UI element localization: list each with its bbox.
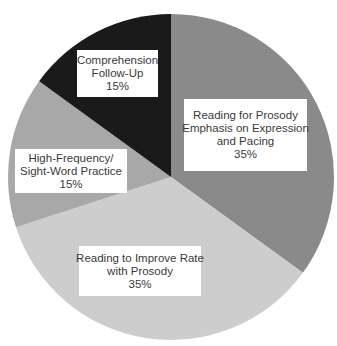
label-percent: 15%	[106, 80, 129, 93]
label-high-frequency: High-Frequency/ Sight-Word Practice 15%	[15, 149, 127, 193]
label-comprehension: Comprehension Follow-Up 15%	[77, 50, 158, 97]
label-line: High-Frequency/	[28, 152, 113, 165]
label-percent: 35%	[234, 148, 257, 161]
label-line: Reading for Prosody	[193, 109, 298, 122]
label-reading-for-prosody: Reading for Prosody Emphasis on Expressi…	[184, 99, 307, 171]
label-line: Sight-Word Practice	[20, 165, 122, 178]
label-line: and Pacing	[217, 135, 275, 148]
label-line: Emphasis on Expression	[182, 122, 309, 135]
label-percent: 15%	[59, 178, 82, 191]
label-line: with Prosody	[107, 265, 173, 278]
label-reading-to-improve-rate: Reading to Improve Rate with Prosody 35%	[79, 246, 201, 296]
label-line: Follow-Up	[92, 67, 144, 80]
label-line: Comprehension	[77, 54, 158, 67]
label-line: Reading to Improve Rate	[76, 252, 204, 265]
label-percent: 35%	[128, 278, 151, 291]
